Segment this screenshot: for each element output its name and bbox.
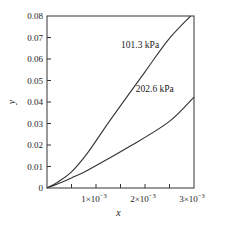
x-tick-label: 2×10−3 (130, 192, 156, 204)
series-line-1 (47, 16, 191, 188)
y-tick-label: 0.02 (27, 140, 43, 150)
chart: 1×10−32×10−33×10−3 00.010.020.030.040.05… (0, 0, 229, 225)
x-axis-label: x (115, 207, 121, 218)
y-axis-label: y (6, 99, 17, 105)
y-tick-label: 0.07 (27, 33, 43, 43)
y-tick-label: 0.01 (27, 162, 43, 172)
y-tick-label: 0.08 (27, 11, 43, 21)
series-label-2: 202.6 kPa (136, 84, 175, 94)
y-tick-label: 0.05 (27, 76, 43, 86)
y-tick-label: 0.04 (27, 97, 43, 107)
y-tick-label: 0.03 (27, 119, 43, 129)
x-axis: 1×10−32×10−33×10−3 (72, 184, 205, 204)
y-tick-label: 0 (39, 183, 44, 193)
x-tick-label: 3×10−3 (179, 192, 205, 204)
series-label-1: 101.3 kPa (121, 40, 160, 50)
y-tick-label: 0.06 (27, 54, 43, 64)
series-group: 101.3 kPa202.6 kPa (47, 16, 194, 188)
x-tick-label: 1×10−3 (81, 192, 107, 204)
